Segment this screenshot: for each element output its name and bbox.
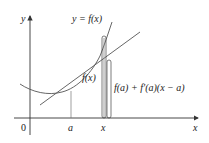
curve-f bbox=[20, 22, 112, 94]
y-axis-label: y bbox=[20, 13, 26, 24]
fx-label: f(x) bbox=[82, 72, 97, 84]
x-axis-label: x bbox=[192, 122, 198, 133]
tangent-value-label: f(a) + f′(a)(x − a) bbox=[114, 82, 185, 94]
origin-label: 0 bbox=[21, 122, 26, 133]
linear-approximation-diagram: y x 0 y = f(x) a x f(x) f(a) + f′(a)(x −… bbox=[0, 0, 209, 143]
tangent-line bbox=[40, 32, 140, 105]
x-point-label: x bbox=[100, 122, 106, 133]
tangent-bracket bbox=[107, 60, 111, 118]
a-label: a bbox=[68, 122, 73, 133]
curve-label: y = f(x) bbox=[71, 13, 103, 25]
